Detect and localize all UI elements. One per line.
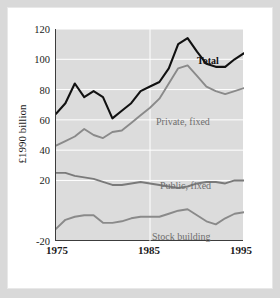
x-tick-1975: 1975	[46, 244, 68, 256]
screenshot-frame: £1990 billion 120 100 80 60 40 20 -20 19…	[0, 0, 280, 298]
y-tick-40: 40	[16, 145, 50, 156]
series-label-total: Total	[197, 55, 219, 66]
series-label-private-fixed: Private, fixed	[156, 116, 210, 127]
y-tick-neg20: -20	[16, 236, 50, 247]
x-tick-1995: 1995	[230, 244, 252, 256]
series-label-public-fixed: Public, fixed	[160, 180, 211, 191]
x-tick-1985: 1985	[138, 244, 160, 256]
plot-area: Total Private, fixed Public, fixed Stock…	[55, 29, 243, 241]
y-tick-80: 80	[16, 84, 50, 95]
y-axis-tick-labels: 120 100 80 60 40 20 -20	[12, 8, 50, 288]
chart-card: £1990 billion 120 100 80 60 40 20 -20 19…	[8, 8, 272, 288]
investment-line-chart: £1990 billion 120 100 80 60 40 20 -20 19…	[8, 8, 272, 288]
y-tick-120: 120	[16, 24, 50, 35]
y-tick-100: 100	[16, 54, 50, 65]
y-tick-60: 60	[16, 114, 50, 125]
series-label-stock-building: Stock building	[152, 231, 211, 242]
y-tick-20: 20	[16, 175, 50, 186]
